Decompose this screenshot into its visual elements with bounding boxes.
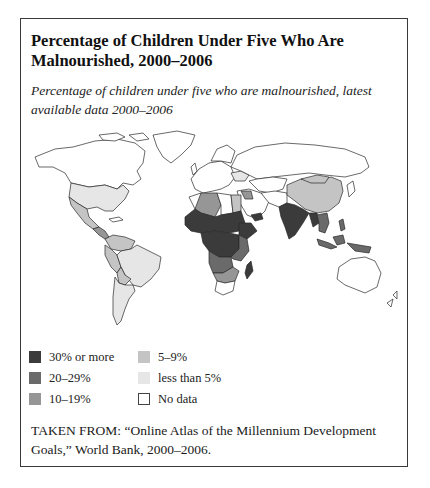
legend-label: 10–19% [49, 392, 91, 407]
region-russia [231, 143, 369, 179]
legend-item-5-9: 5–9% [138, 349, 187, 365]
figure-title: Percentage of Children Under Five Who Ar… [31, 31, 391, 71]
region-canada [35, 139, 145, 189]
map-figure-frame: Percentage of Children Under Five Who Ar… [20, 18, 408, 467]
legend-item-30-plus: 30% or more [29, 349, 114, 365]
legend-item-20-29: 20–29% [29, 370, 91, 386]
region-scandinavia [211, 145, 235, 163]
legend-swatch [138, 372, 150, 384]
legend-label: less than 5% [158, 371, 221, 386]
region-japan [347, 181, 355, 197]
region-europe [191, 161, 235, 193]
region-australia [337, 257, 381, 293]
legend-swatch [29, 372, 41, 384]
legend-swatch [29, 351, 41, 363]
legend-label: 5–9% [158, 350, 187, 365]
figure-subtitle: Percentage of children under five who ar… [31, 81, 391, 119]
legend-label: 30% or more [49, 350, 114, 365]
legend-label: No data [158, 392, 197, 407]
legend-item-10-19: 10–19% [29, 391, 91, 407]
legend-swatch [29, 393, 41, 405]
legend-label: 20–29% [49, 371, 91, 386]
region-caribbean [109, 217, 123, 222]
map-legend: 30% or more 20–29% 10–19% 5–9% less than… [29, 349, 329, 429]
legend-item-no-data: No data [138, 391, 197, 407]
source-citation: TAKEN FROM: “Online Atlas of the Millenn… [31, 421, 401, 459]
region-madagascar [245, 261, 253, 279]
region-greenland [153, 131, 195, 163]
region-arctic-islands [99, 133, 149, 141]
legend-swatch [138, 393, 150, 405]
region-central-africa [201, 231, 239, 257]
region-philippines [339, 219, 345, 231]
region-central-america [93, 227, 109, 239]
region-southeast-asia [317, 213, 329, 233]
region-egypt [231, 195, 241, 213]
legend-item-less-than-5: less than 5% [138, 370, 221, 386]
region-south-africa [215, 281, 235, 295]
region-indonesia [317, 235, 371, 253]
world-map [25, 127, 405, 337]
legend-swatch [138, 351, 150, 363]
region-new-zealand [387, 291, 397, 307]
